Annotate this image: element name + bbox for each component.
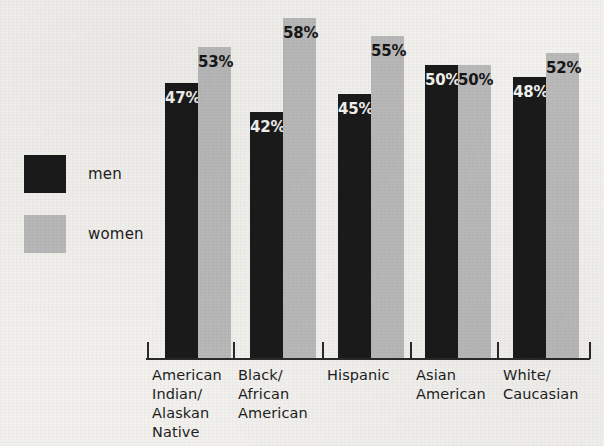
legend-item-men: men <box>24 155 144 193</box>
legend-label-men: men <box>88 165 122 183</box>
chart-legend: men women <box>24 155 144 253</box>
category-label-line: American <box>152 366 222 385</box>
bar-men-5: 48% <box>513 77 546 358</box>
category-label-line: White/ <box>503 366 579 385</box>
axis-tick-3 <box>322 342 324 359</box>
grouped-bar-chart: men women 47%53%42%58%45%55%50%50%48%52%… <box>0 0 604 446</box>
bar-men-2: 42% <box>250 112 283 358</box>
legend-swatch-men <box>24 155 66 193</box>
bar-women-2: 58% <box>283 18 316 358</box>
legend-item-women: women <box>24 215 144 253</box>
category-label-line: Indian/ <box>152 385 222 404</box>
category-label-line: Asian <box>416 366 486 385</box>
bar-women-1: 53% <box>198 47 231 358</box>
category-label-line: Hispanic <box>327 366 390 385</box>
axis-tick-1 <box>147 342 149 359</box>
category-label-5: White/Caucasian <box>503 366 579 404</box>
bar-value-label: 48% <box>513 83 546 101</box>
axis-tick-6 <box>589 342 591 359</box>
category-label-4: AsianAmerican <box>416 366 486 404</box>
bar-value-label: 50% <box>425 71 458 89</box>
bar-women-3: 55% <box>371 36 404 358</box>
bar-women-5: 52% <box>546 53 579 358</box>
category-label-line: Black/ <box>238 366 308 385</box>
axis-tick-2 <box>233 342 235 359</box>
category-label-3: Hispanic <box>327 366 390 385</box>
category-label-line: American <box>238 404 308 423</box>
bar-value-label: 52% <box>546 59 579 77</box>
bar-value-label: 58% <box>283 24 316 42</box>
category-label-line: Caucasian <box>503 385 579 404</box>
axis-tick-4 <box>410 342 412 359</box>
bar-women-4: 50% <box>458 65 491 358</box>
category-label-1: AmericanIndian/AlaskanNative <box>152 366 222 442</box>
bar-value-label: 50% <box>458 71 491 89</box>
legend-label-women: women <box>88 225 144 243</box>
category-label-line: Native <box>152 423 222 442</box>
category-label-line: Alaskan <box>152 404 222 423</box>
bar-value-label: 53% <box>198 53 231 71</box>
bar-men-4: 50% <box>425 65 458 358</box>
category-label-line: African <box>238 385 308 404</box>
axis-baseline <box>146 358 590 360</box>
category-label-2: Black/AfricanAmerican <box>238 366 308 423</box>
bar-men-3: 45% <box>338 94 371 358</box>
bar-value-label: 55% <box>371 42 404 60</box>
bar-value-label: 45% <box>338 100 371 118</box>
bar-men-1: 47% <box>165 83 198 358</box>
category-label-line: American <box>416 385 486 404</box>
axis-tick-5 <box>497 342 499 359</box>
legend-swatch-women <box>24 215 66 253</box>
bar-value-label: 47% <box>165 89 198 107</box>
bar-value-label: 42% <box>250 118 283 136</box>
